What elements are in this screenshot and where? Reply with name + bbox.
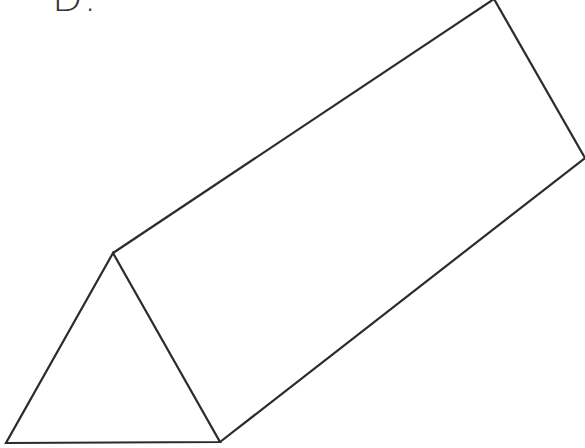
front-triangle-face [6,253,220,443]
bottom-right-edge [220,158,585,442]
back-slant-edge [494,0,585,158]
top-edge [113,0,494,253]
triangular-prism-diagram [0,0,585,448]
